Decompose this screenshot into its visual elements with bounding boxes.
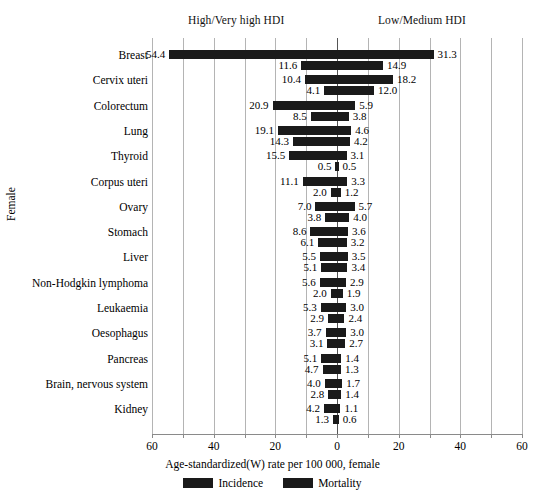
bar-right <box>337 379 342 388</box>
bar-right <box>337 202 355 211</box>
bar-right <box>337 151 347 160</box>
gridline <box>491 38 492 434</box>
category-label-column: BreastCervix uteriColorectumLungThyroidC… <box>0 38 148 434</box>
bar-value-label-left: 1.3 <box>273 415 329 424</box>
bar-value-label-right: 31.3 <box>438 50 457 59</box>
bar-left <box>293 137 337 146</box>
bar-value-label-left: 8.6 <box>250 227 306 236</box>
bar-value-label-right: 2.4 <box>348 314 362 323</box>
bar-left <box>311 112 337 121</box>
bar-left <box>273 101 337 110</box>
x-axis-tick <box>306 434 307 438</box>
bar-value-label-right: 1.4 <box>345 390 359 399</box>
bar-value-label-right: 5.9 <box>359 101 373 110</box>
bar-value-label-left: 2.8 <box>268 390 324 399</box>
x-axis-tick-label: 60 <box>505 440 539 452</box>
legend-swatch <box>283 478 313 488</box>
bar-left <box>325 379 337 388</box>
bar-value-label-right: 12.0 <box>378 86 397 95</box>
bar-value-label-right: 4.6 <box>355 126 369 135</box>
x-axis-tick <box>368 434 369 438</box>
category-label: Leukaemia <box>0 302 148 314</box>
bar-right <box>337 177 347 186</box>
plot-area: 54.431.311.614.910.418.24.112.020.95.98.… <box>152 38 522 434</box>
gridline <box>183 38 184 434</box>
x-axis-tick <box>337 434 338 438</box>
gridline <box>214 38 215 434</box>
bar-right <box>337 354 341 363</box>
bar-value-label-left: 10.4 <box>245 75 301 84</box>
panel-title-right: Low/Medium HDI <box>378 14 466 26</box>
bar-left <box>301 61 337 70</box>
bar-right <box>337 238 347 247</box>
category-label: Stomach <box>0 226 148 238</box>
x-axis-title: Age-standardized(W) rate per 100 000, fe… <box>0 458 545 470</box>
x-axis-tick <box>275 434 276 438</box>
bar-left <box>328 390 337 399</box>
bar-right <box>337 263 347 272</box>
legend-label: Incidence <box>218 477 263 489</box>
bar-value-label-left: 54.4 <box>109 50 165 59</box>
bar-right <box>337 112 349 121</box>
bar-value-label-right: 3.5 <box>352 252 366 261</box>
x-axis-tick <box>399 434 400 438</box>
bar-right <box>337 61 383 70</box>
bar-left <box>327 339 337 348</box>
bar-left <box>323 365 337 374</box>
chart-legend: IncidenceMortality <box>0 477 545 489</box>
bar-value-label-left: 3.1 <box>267 339 323 348</box>
bar-value-label-right: 1.1 <box>344 404 358 413</box>
bar-value-label-left: 5.1 <box>261 263 317 272</box>
x-axis-tick-label: 20 <box>382 440 416 452</box>
x-axis-tick <box>522 434 523 438</box>
gridline <box>245 38 246 434</box>
gridline <box>399 38 400 434</box>
legend-swatch <box>183 478 213 488</box>
bar-value-label-left: 19.1 <box>218 126 274 135</box>
bar-value-label-right: 3.1 <box>351 151 365 160</box>
bar-right <box>337 50 434 59</box>
x-axis-tick-label: 0 <box>320 440 354 452</box>
population-pyramid-chart: High/Very high HDI Low/Medium HDI Female… <box>0 0 545 500</box>
bar-value-label-left: 2.9 <box>268 314 324 323</box>
bar-left <box>310 227 337 236</box>
bar-value-label-right: 14.9 <box>387 61 406 70</box>
bar-right <box>337 213 349 222</box>
bar-left <box>324 404 337 413</box>
gridline <box>522 38 523 434</box>
bar-right <box>337 339 345 348</box>
bar-left <box>169 50 337 59</box>
bar-right <box>337 303 346 312</box>
bar-value-label-left: 15.5 <box>229 151 285 160</box>
bar-value-label-left: 5.3 <box>261 303 317 312</box>
bar-left <box>321 303 337 312</box>
bar-left <box>321 354 337 363</box>
bar-left <box>320 278 337 287</box>
bar-value-label-right: 3.0 <box>350 303 364 312</box>
category-label: Kidney <box>0 403 148 415</box>
bar-value-label-right: 18.2 <box>397 75 416 84</box>
x-axis-tick <box>183 434 184 438</box>
bar-value-label-right: 2.9 <box>350 278 364 287</box>
category-label: Cervix uteri <box>0 74 148 86</box>
category-label: Corpus uteri <box>0 176 148 188</box>
bar-left <box>318 238 337 247</box>
bar-left <box>315 202 337 211</box>
bar-value-label-right: 1.7 <box>346 379 360 388</box>
bar-value-label-right: 1.9 <box>347 289 361 298</box>
bar-left <box>289 151 337 160</box>
bar-value-label-left: 5.5 <box>260 252 316 261</box>
bar-value-label-left: 4.2 <box>264 404 320 413</box>
legend-item: Incidence <box>183 477 263 489</box>
bar-value-label-left: 6.1 <box>258 238 314 247</box>
bar-value-label-right: 3.4 <box>351 263 365 272</box>
gridline <box>152 38 153 434</box>
bar-value-label-right: 0.6 <box>343 415 357 424</box>
bar-value-label-right: 3.3 <box>351 177 365 186</box>
category-label: Brain, nervous system <box>0 378 148 390</box>
x-axis-tick-label: 60 <box>135 440 169 452</box>
bar-value-label-right: 1.4 <box>345 354 359 363</box>
bar-right <box>337 252 348 261</box>
category-label: Pancreas <box>0 353 148 365</box>
legend-label: Mortality <box>318 477 361 489</box>
